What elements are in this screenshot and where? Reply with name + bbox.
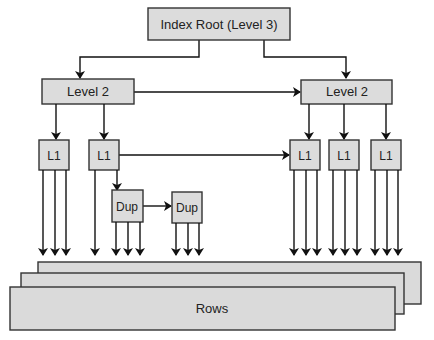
index-root-node: Index Root (Level 3) [148,8,290,40]
l1-node-5: L1 [371,140,401,170]
svg-text:L1: L1 [97,149,111,163]
l1-node-1: L1 [39,140,69,170]
rows-label: Rows [196,301,229,316]
l1-node-2: L1 [89,140,119,170]
arrow-root-to-right-level2 [264,40,346,78]
svg-text:Dup: Dup [116,200,138,214]
svg-text:L1: L1 [337,149,351,163]
dup-node-1: Dup [112,190,143,222]
svg-text:L1: L1 [379,149,393,163]
svg-text:L1: L1 [298,149,312,163]
level2-label-left: Level 2 [67,84,109,99]
leaf-to-row-arrows [43,170,398,255]
index-root-label: Index Root (Level 3) [160,17,277,32]
arrow-root-to-left-level2 [80,40,199,78]
rows-stack: Rows [10,262,421,330]
index-structure-diagram: Rows Index Root (Level 3) Level 2 Level … [0,0,434,340]
root-connectors [80,40,346,78]
level2-node-right: Level 2 [301,80,392,104]
l1-node-3: L1 [290,140,320,170]
level2-label-right: Level 2 [326,84,368,99]
l1-node-4: L1 [329,140,359,170]
dup-node-2: Dup [172,192,202,223]
svg-text:Dup: Dup [176,201,198,215]
level2-node-left: Level 2 [42,79,134,104]
level2-to-l1-arrows [56,104,386,139]
svg-text:L1: L1 [47,149,61,163]
